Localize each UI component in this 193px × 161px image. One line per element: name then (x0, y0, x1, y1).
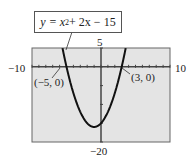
equation-leader-line (66, 32, 72, 50)
x-max-label: 10 (175, 63, 186, 74)
y-min-label: −20 (90, 146, 107, 157)
equation-label: y = x2 + 2x − 15 (34, 11, 122, 33)
annotation-right: (3, 0) (131, 72, 155, 83)
y-max-label: 5 (97, 37, 103, 48)
x-min-label: −10 (8, 63, 25, 74)
annotation-left: (−5, 0) (34, 77, 64, 88)
